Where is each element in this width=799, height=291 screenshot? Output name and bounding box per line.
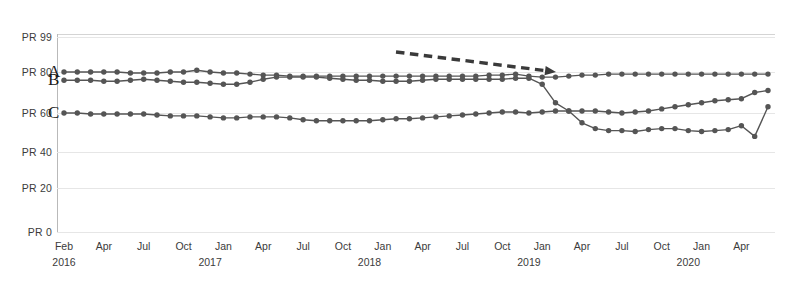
data-point bbox=[752, 90, 757, 95]
data-point bbox=[393, 116, 398, 121]
data-point bbox=[726, 71, 731, 76]
data-point bbox=[712, 98, 717, 103]
data-point bbox=[141, 77, 146, 82]
x-tick-label: Apr bbox=[719, 240, 763, 252]
data-point bbox=[141, 111, 146, 116]
data-point bbox=[314, 118, 319, 123]
data-point bbox=[739, 123, 744, 128]
data-point bbox=[540, 109, 545, 114]
data-point bbox=[593, 108, 598, 113]
y-tick-label: PR 60 bbox=[0, 107, 52, 119]
chart-container: PR 99PR 80PR 60PR 40PR 20PR 0 ABC FebApr… bbox=[0, 0, 799, 291]
data-point bbox=[101, 69, 106, 74]
data-point bbox=[61, 110, 66, 115]
data-point bbox=[61, 69, 66, 74]
x-tick-label: Oct bbox=[480, 240, 524, 252]
data-point bbox=[380, 117, 385, 122]
data-point bbox=[672, 71, 677, 76]
data-point bbox=[606, 128, 611, 133]
data-point bbox=[712, 71, 717, 76]
y-tick-label: PR 99 bbox=[0, 31, 52, 43]
data-point bbox=[566, 108, 571, 113]
data-point bbox=[765, 104, 770, 109]
data-point bbox=[619, 128, 624, 133]
plot-frame bbox=[57, 34, 775, 233]
data-point bbox=[646, 127, 651, 132]
x-tick-label: Jan bbox=[520, 240, 564, 252]
data-point bbox=[473, 77, 478, 82]
data-point bbox=[234, 70, 239, 75]
data-point bbox=[579, 108, 584, 113]
data-point bbox=[380, 73, 385, 78]
data-point bbox=[247, 71, 252, 76]
data-point bbox=[221, 82, 226, 87]
data-point bbox=[619, 110, 624, 115]
data-point bbox=[579, 120, 584, 125]
data-point bbox=[327, 76, 332, 81]
data-point bbox=[221, 115, 226, 120]
data-point bbox=[619, 71, 624, 76]
data-point bbox=[433, 77, 438, 82]
y-tick-label: PR 40 bbox=[0, 146, 52, 158]
data-point bbox=[447, 113, 452, 118]
data-point bbox=[460, 112, 465, 117]
data-point bbox=[128, 78, 133, 83]
data-point bbox=[393, 79, 398, 84]
data-point bbox=[540, 74, 545, 79]
data-point bbox=[686, 128, 691, 133]
data-point bbox=[473, 111, 478, 116]
data-point bbox=[752, 71, 757, 76]
x-tick-label: Oct bbox=[640, 240, 684, 252]
data-point bbox=[553, 74, 558, 79]
x-year-label: 2018 bbox=[348, 256, 392, 268]
series-label-B: B bbox=[48, 71, 59, 88]
data-point bbox=[606, 109, 611, 114]
data-point bbox=[739, 96, 744, 101]
data-point bbox=[114, 79, 119, 84]
data-point bbox=[181, 80, 186, 85]
data-point bbox=[88, 69, 93, 74]
data-point bbox=[553, 100, 558, 105]
data-point bbox=[500, 77, 505, 82]
x-year-label: 2020 bbox=[666, 256, 710, 268]
data-point bbox=[500, 109, 505, 114]
data-point bbox=[114, 69, 119, 74]
x-tick-label: Jul bbox=[281, 240, 325, 252]
data-point bbox=[234, 115, 239, 120]
data-point bbox=[739, 71, 744, 76]
data-point bbox=[699, 129, 704, 134]
data-point bbox=[247, 80, 252, 85]
data-point bbox=[593, 72, 598, 77]
data-point bbox=[154, 70, 159, 75]
data-point bbox=[327, 118, 332, 123]
data-point bbox=[672, 126, 677, 131]
data-point bbox=[566, 73, 571, 78]
data-point bbox=[646, 108, 651, 113]
data-point bbox=[726, 97, 731, 102]
data-point bbox=[340, 77, 345, 82]
data-point bbox=[513, 76, 518, 81]
y-tick-label: PR 20 bbox=[0, 182, 52, 194]
data-point bbox=[207, 69, 212, 74]
data-point bbox=[513, 109, 518, 114]
data-point bbox=[168, 113, 173, 118]
data-point bbox=[606, 71, 611, 76]
data-point bbox=[207, 81, 212, 86]
x-tick-label: Apr bbox=[241, 240, 285, 252]
data-point bbox=[88, 78, 93, 83]
data-point bbox=[101, 79, 106, 84]
data-point bbox=[141, 70, 146, 75]
data-point bbox=[765, 88, 770, 93]
data-point bbox=[194, 80, 199, 85]
data-point bbox=[672, 104, 677, 109]
data-point bbox=[61, 78, 66, 83]
data-point bbox=[75, 78, 80, 83]
data-point bbox=[207, 114, 212, 119]
data-point bbox=[765, 71, 770, 76]
data-point bbox=[154, 112, 159, 117]
data-point bbox=[659, 126, 664, 131]
data-point bbox=[75, 69, 80, 74]
x-tick-label: Jan bbox=[680, 240, 724, 252]
data-point bbox=[101, 111, 106, 116]
data-point bbox=[460, 77, 465, 82]
